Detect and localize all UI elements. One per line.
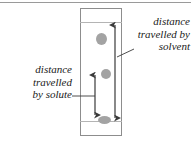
- annotation-solute: distance travelled by solute: [6, 63, 72, 101]
- chromatography-diagram: distance travelled by solvent distance t…: [0, 0, 191, 143]
- annotation-solvent: distance travelled by solvent: [126, 15, 190, 53]
